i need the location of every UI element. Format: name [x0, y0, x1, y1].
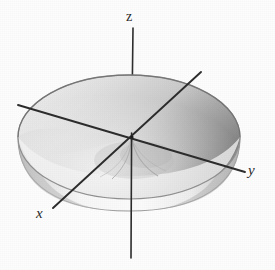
- x-axis-label: x: [36, 206, 43, 221]
- origin-point: [130, 135, 133, 138]
- figure-container: z y x: [0, 0, 275, 270]
- z-axis-label: z: [126, 10, 132, 24]
- surface-plot-svg: [0, 0, 275, 270]
- z-axis-lower-segment: [131, 133, 132, 258]
- y-axis-label: y: [248, 163, 255, 178]
